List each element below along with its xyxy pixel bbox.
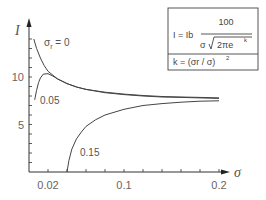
formula-k-definition: k = (σr / σ)	[173, 57, 215, 67]
series-label-0-05: 0.05	[40, 95, 60, 106]
y-tick-label: 5	[18, 119, 24, 131]
svg-text:σr = 0: σr = 0	[44, 37, 70, 50]
y-axis-label: I	[14, 23, 21, 38]
y-tick-label: 10	[12, 71, 24, 83]
x-tick-label: 0.2	[211, 179, 226, 191]
x-tick-label: 0.1	[116, 179, 131, 191]
series-line-2	[67, 101, 219, 172]
chart: I σ 0.020.10.2 510 σr = 0 0.05 0.15 I = …	[0, 0, 266, 200]
y-axis-arrow-icon	[27, 18, 32, 27]
x-tick-label: 0.02	[37, 179, 58, 191]
y-tick-labels: 510	[12, 71, 24, 131]
formula-denominator-root: 2πe	[217, 40, 233, 50]
sigma-r-equals-zero: = 0	[53, 37, 70, 48]
series-label-sigma-r-0: σr = 0	[44, 37, 70, 50]
x-axis-label: σ	[234, 165, 242, 180]
series-label-0-15: 0.15	[80, 147, 100, 158]
formula-box: I = Ib 100 σ 2πe k k = (σr / σ) 2	[168, 8, 258, 70]
series-line-1	[35, 74, 219, 100]
formula-numerator: 100	[218, 17, 233, 27]
formula-denominator-sigma: σ	[200, 40, 206, 50]
x-tick-labels: 0.020.10.2	[37, 179, 226, 191]
formula-lhs: I = Ib	[173, 30, 193, 40]
x-axis-arrow-icon	[221, 170, 230, 175]
